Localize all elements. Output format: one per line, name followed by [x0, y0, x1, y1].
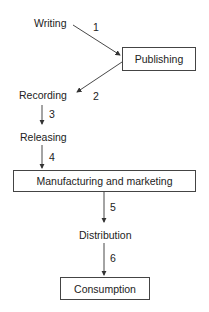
- node-recording: Recording: [19, 89, 67, 101]
- edge-label-2: 2: [93, 90, 99, 102]
- edge-label-3: 3: [49, 108, 55, 120]
- arrow-2: [77, 62, 122, 92]
- node-releasing: Releasing: [20, 131, 67, 143]
- node-publishing-label: Publishing: [135, 53, 183, 65]
- node-manufacturing: Manufacturing and marketing: [13, 170, 196, 192]
- node-writing: Writing: [34, 17, 66, 29]
- node-publishing: Publishing: [122, 47, 196, 71]
- edge-label-5: 5: [110, 201, 116, 213]
- edge-label-6: 6: [110, 252, 116, 264]
- node-consumption: Consumption: [60, 277, 150, 300]
- node-consumption-label: Consumption: [74, 283, 136, 295]
- node-manufacturing-label: Manufacturing and marketing: [37, 175, 173, 187]
- edge-label-1: 1: [93, 21, 99, 33]
- node-distribution: Distribution: [79, 229, 132, 241]
- edge-label-4: 4: [49, 151, 55, 163]
